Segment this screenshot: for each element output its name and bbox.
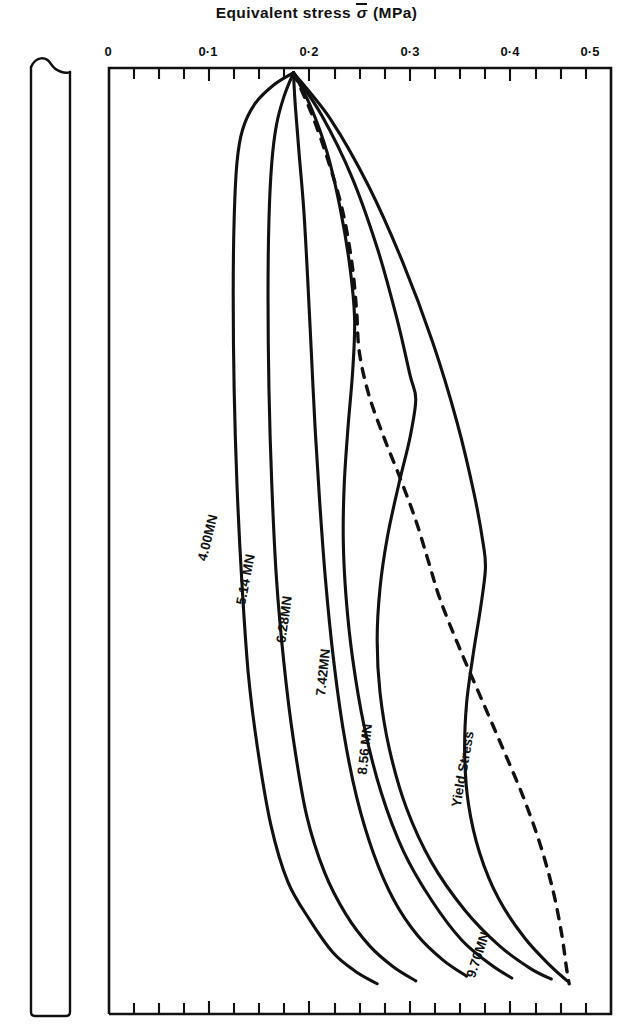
curve-yield-stress [293,73,569,984]
plot-svg [0,0,633,1036]
plot-frame [109,68,611,1014]
curve-8-56-mn [293,73,551,979]
figure-root: Equivalent stress σ (MPa) 0 0·1 0·2 0·3 … [0,0,633,1036]
top-axis-ticks [134,68,586,81]
bottom-axis-ticks [134,1001,586,1014]
specimen-body [31,67,70,1016]
curve-9-70mn [293,73,567,981]
axis-ticks [134,68,586,1014]
specimen-break-symbol [31,58,70,72]
specimen-diagram [31,58,70,1016]
data-curves [233,73,569,984]
axes-box [109,68,611,1014]
